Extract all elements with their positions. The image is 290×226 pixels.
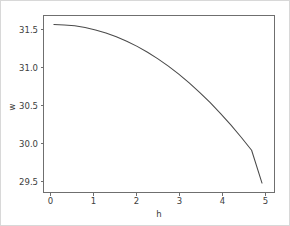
- y-tick-label: 29.5: [19, 177, 38, 187]
- y-tick-label: 31.0: [19, 63, 38, 73]
- x-tick-labels: 0 1 2 3 4 5: [48, 196, 268, 206]
- y-tick-labels: 31.5 31.0 30.5 30.0 29.5: [19, 25, 38, 187]
- x-tick-label: 5: [263, 196, 268, 206]
- x-tick-label: 2: [134, 196, 139, 206]
- x-tick-label: 4: [220, 196, 225, 206]
- x-tick-label: 1: [91, 196, 96, 206]
- plot-canvas: 31.5 31.0 30.5 30.0 29.5 0 1 2 3 4 5 h w: [1, 1, 290, 226]
- y-axis-label: w: [7, 103, 17, 110]
- x-axis-label: h: [156, 209, 161, 219]
- x-tick-label: 0: [48, 196, 53, 206]
- x-tick-label: 3: [177, 196, 182, 206]
- y-tick-label: 30.5: [19, 101, 38, 111]
- y-tick-label: 30.0: [19, 139, 38, 149]
- axes-frame: [44, 16, 275, 193]
- y-tick-label: 31.5: [19, 25, 38, 35]
- data-line-w: [54, 25, 262, 184]
- matplotlib-figure: 31.5 31.0 30.5 30.0 29.5 0 1 2 3 4 5 h w: [0, 0, 290, 226]
